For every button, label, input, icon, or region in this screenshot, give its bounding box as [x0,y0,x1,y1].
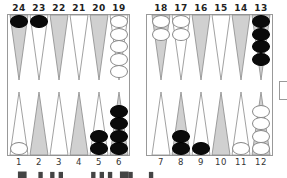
white-checker[interactable] [252,105,270,118]
black-checker[interactable] [172,142,190,155]
point-label-8: 8 [171,157,191,167]
white-checker[interactable] [152,15,170,28]
point-14[interactable] [232,15,250,80]
point-4[interactable] [70,92,88,155]
black-checker[interactable] [252,15,270,28]
white-checker[interactable] [110,40,128,53]
point-20[interactable] [90,15,108,80]
white-checker[interactable] [252,142,270,155]
black-checker[interactable] [110,105,128,118]
black-checker[interactable] [30,15,48,28]
point-7[interactable] [152,92,170,155]
white-checker[interactable] [252,130,270,143]
point-15[interactable] [212,15,230,80]
point-label-12: 12 [251,157,271,167]
black-checker[interactable] [10,15,28,28]
black-checker[interactable] [252,40,270,53]
white-checker[interactable] [152,28,170,41]
point-3[interactable] [50,92,68,155]
point-label-5: 5 [89,157,109,167]
white-checker[interactable] [110,15,128,28]
point-10[interactable] [212,92,230,155]
point-label-3: 3 [49,157,69,167]
point-label-11: 11 [231,157,251,167]
black-checker[interactable] [90,130,108,143]
point-label-4: 4 [69,157,89,167]
white-checker[interactable] [110,65,128,78]
point-label-1: 1 [9,157,29,167]
white-checker[interactable] [110,53,128,66]
point-label-9: 9 [191,157,211,167]
side-box[interactable] [279,81,287,100]
point-label-2: 2 [29,157,49,167]
white-checker[interactable] [172,15,190,28]
point-2[interactable] [30,92,48,155]
black-checker[interactable] [172,130,190,143]
black-checker[interactable] [110,142,128,155]
white-checker[interactable] [110,28,128,41]
bottom-point-labels: 1 2 3 4 5 6 7 8 9 10 11 12 [0,157,287,169]
point-21[interactable] [70,15,88,80]
white-checker[interactable] [252,117,270,130]
white-checker[interactable] [10,142,28,155]
point-label-10: 10 [211,157,231,167]
white-checker[interactable] [172,28,190,41]
point-22[interactable] [50,15,68,80]
white-checker[interactable] [232,142,250,155]
black-checker[interactable] [252,28,270,41]
black-checker[interactable] [90,142,108,155]
point-16[interactable] [192,15,210,80]
black-checker[interactable] [110,130,128,143]
black-checker[interactable] [252,53,270,66]
caption-text: ▀▄ ▌ ▌▌ ▄▄ ▌▌▌ ▀▌ ▄▌ [18,172,157,178]
black-checker[interactable] [192,142,210,155]
point-label-7: 7 [151,157,171,167]
point-label-6: 6 [109,157,129,167]
black-checker[interactable] [110,117,128,130]
